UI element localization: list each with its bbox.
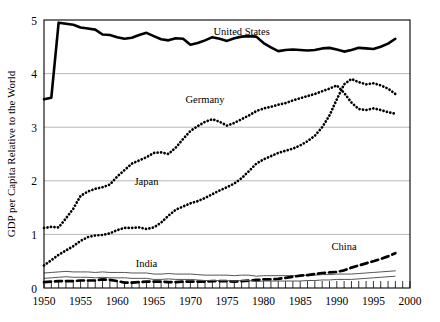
x-tick-label-2000: 2000 <box>399 295 422 307</box>
x-tick-label-1955: 1955 <box>69 295 92 307</box>
series-label-china: China <box>332 241 357 252</box>
y-tick-label-2: 2 <box>31 175 37 187</box>
series-label-japan: Japan <box>135 176 160 187</box>
x-tick-label-1965: 1965 <box>142 295 165 307</box>
series-label-united-states: United States <box>213 26 269 37</box>
x-tick-label-1980: 1980 <box>252 295 275 307</box>
y-tick-label-0: 0 <box>31 283 37 295</box>
chart-canvas: 0123451950195519601965197019751980198519… <box>0 0 440 322</box>
x-tick-label-1990: 1990 <box>325 295 348 307</box>
series-line-india-lower <box>44 276 395 281</box>
y-tick-label-4: 4 <box>31 68 37 80</box>
y-axis-title: GDP per Capita Relative to the World <box>5 70 17 237</box>
gdp-per-capita-chart: 0123451950195519601965197019751980198519… <box>0 0 440 322</box>
y-tick-label-3: 3 <box>31 122 37 134</box>
series-line-china <box>44 253 395 282</box>
x-tick-label-1985: 1985 <box>289 295 312 307</box>
x-tick-label-1970: 1970 <box>179 295 202 307</box>
series-label-india: India <box>136 258 158 269</box>
x-tick-label-1960: 1960 <box>106 295 129 307</box>
series-label-germany: Germany <box>186 94 226 105</box>
y-tick-label-1: 1 <box>31 229 37 241</box>
x-tick-label-1950: 1950 <box>33 295 56 307</box>
x-tick-label-1975: 1975 <box>216 295 239 307</box>
y-tick-label-5: 5 <box>31 15 37 27</box>
series-line-germany <box>44 85 395 228</box>
x-tick-label-1995: 1995 <box>362 295 385 307</box>
series-line-japan <box>44 79 395 266</box>
